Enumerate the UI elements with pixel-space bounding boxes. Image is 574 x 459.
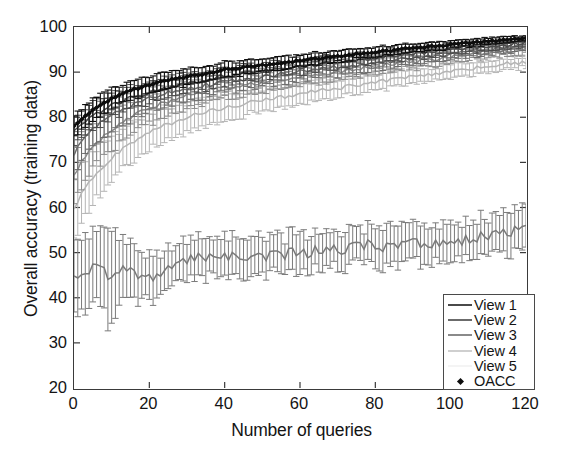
- y-tick-label-30: 30: [7, 332, 67, 351]
- y-tick-label-90: 90: [7, 62, 67, 81]
- x-tick-label-80: 80: [344, 394, 404, 413]
- y-tick-label-70: 70: [7, 152, 67, 171]
- chart-figure: Overall accuracy (training data) 2030405…: [0, 0, 574, 459]
- legend-item-view-2[interactable]: View 2: [444, 312, 534, 327]
- y-tick-label-50: 50: [7, 242, 67, 261]
- legend-label-oacc: OACC: [474, 373, 516, 389]
- legend-line-icon-view-2: [446, 313, 474, 327]
- y-tick-label-80: 80: [7, 107, 67, 126]
- legend-item-view-1[interactable]: View 1: [444, 297, 534, 312]
- x-tick-label-40: 40: [194, 394, 254, 413]
- x-tick-label-120: 120: [495, 394, 555, 413]
- legend-item-oacc[interactable]: OACC: [444, 373, 534, 388]
- legend-line-icon-view-4: [446, 344, 474, 358]
- legend-label-view-3: View 3: [474, 327, 517, 343]
- legend-label-view-4: View 4: [474, 343, 517, 359]
- y-tick-label-100: 100: [7, 17, 67, 36]
- y-tick-label-60: 60: [7, 197, 67, 216]
- legend-line-icon-view-5: [446, 359, 474, 373]
- legend-line-icon-view-1: [446, 298, 474, 312]
- legend-line-icon-view-3: [446, 328, 474, 342]
- x-axis-label: Number of queries: [74, 420, 529, 441]
- legend-diamond-marker-icon-oacc: [446, 374, 474, 388]
- x-tick-label-60: 60: [269, 394, 329, 413]
- x-tick-label-0: 0: [43, 394, 103, 413]
- chart-legend[interactable]: View 1 View 2 View 3 View 4 View 5 OACC: [443, 294, 535, 390]
- legend-label-view-5: View 5: [474, 358, 517, 374]
- legend-label-view-1: View 1: [474, 297, 517, 313]
- legend-item-view-5[interactable]: View 5: [444, 358, 534, 373]
- legend-label-view-2: View 2: [474, 312, 517, 328]
- legend-item-view-4[interactable]: View 4: [444, 343, 534, 358]
- x-tick-label-20: 20: [118, 394, 178, 413]
- x-tick-label-100: 100: [420, 394, 480, 413]
- legend-item-view-3[interactable]: View 3: [444, 328, 534, 343]
- y-tick-label-40: 40: [7, 287, 67, 306]
